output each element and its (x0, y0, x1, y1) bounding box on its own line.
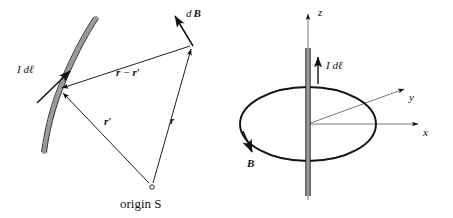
source-position-label-prime-mark: ′ (108, 115, 111, 127)
dB-vector-label: dB (186, 8, 201, 19)
vertical-wire (306, 48, 310, 196)
right-current-element-label: I dℓ (326, 60, 343, 71)
right-panel-group (240, 14, 418, 200)
B-direction-arrow (243, 131, 252, 152)
source-position-vector-arrow (63, 93, 149, 183)
field-position-vector-label: r (170, 115, 174, 126)
dB-label-B: B (192, 7, 201, 19)
left-panel-group (37, 16, 193, 189)
dB-vector-arrow (175, 16, 193, 46)
origin-label: origin S (120, 197, 162, 210)
left-current-element-label: I dℓ (17, 64, 34, 75)
source-position-vector-label: r′ (104, 116, 111, 127)
B-field-label: B (247, 158, 254, 169)
y-axis (308, 89, 404, 124)
origin-point-marker (150, 185, 154, 189)
separation-vector-label: r−r′ (116, 67, 140, 78)
x-axis-label: x (423, 127, 428, 138)
dB-label-d: d (186, 7, 192, 19)
z-axis-label: z (318, 7, 322, 18)
separation-label-prime-mark: ′ (137, 66, 140, 78)
figure-container: I dℓ dB r−r′ r′ r origin S z y x I dℓ B (0, 0, 453, 218)
figure-vector-graphics (0, 0, 453, 218)
separation-label-minus: − (120, 66, 132, 78)
y-axis-label: y (409, 92, 414, 103)
curved-wire (42, 17, 99, 152)
